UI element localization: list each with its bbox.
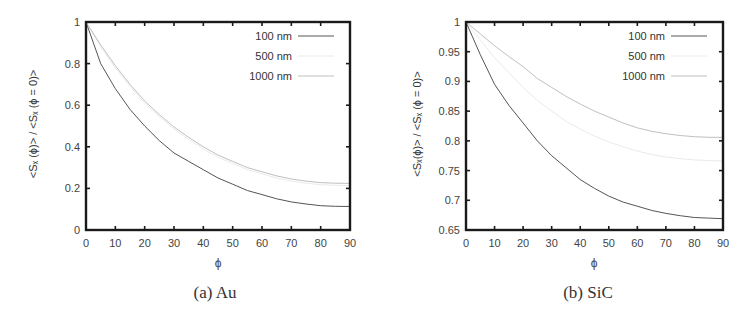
x-axis-label-au: ϕ [208,256,228,270]
y-tick-label: 0 [74,224,80,236]
x-tick-label: 10 [109,237,121,249]
x-tick-label: 0 [83,237,89,249]
y-tick-label: 0.85 [439,105,460,117]
x-tick-label: 80 [688,237,700,249]
legend-label: 1000 nm [249,70,292,82]
y-tick-label: 0.95 [439,46,460,58]
x-tick-label: 0 [463,237,469,249]
y-tick-label: 0.4 [65,141,80,153]
x-tick-label: 50 [227,237,239,249]
caption-sic: (b) SiC [401,283,749,303]
y-tick-label: 0.8 [65,58,80,70]
y-tick-label: 0.2 [65,182,80,194]
y-tick-label: 0.9 [445,75,460,87]
x-tick-label: 80 [315,237,327,249]
x-tick-label: 40 [197,237,209,249]
x-tick-label: 70 [285,237,297,249]
x-tick-label: 50 [603,237,615,249]
x-tick-label: 60 [256,237,268,249]
y-tick-label: 0.7 [445,194,460,206]
y-tick-label: 1 [74,16,80,28]
legend-label: 500 nm [628,50,665,62]
x-tick-label: 70 [660,237,672,249]
series-line-500-nm [466,22,723,161]
y-tick-label: 0.8 [445,135,460,147]
x-tick-label: 20 [517,237,529,249]
plot-frame [86,22,350,230]
y-tick-label: 1 [454,16,460,28]
legend-label: 100 nm [255,30,292,42]
plot-sic: 01020304050607080900.650.70.750.80.850.9… [375,0,749,319]
series-line-100-nm [466,22,723,219]
x-tick-label: 90 [344,237,356,249]
y-tick-label: 0.75 [439,165,460,177]
x-axis-label-sic: ϕ [584,256,604,270]
x-tick-label: 40 [574,237,586,249]
series-line-100-nm [86,22,350,207]
y-tick-label: 0.6 [65,99,80,111]
x-tick-label: 10 [488,237,500,249]
caption-au: (a) Au [28,283,402,303]
y-axis-label-sic: <Sₓ(ϕ)> / <Sₓ (ϕ = 0)> [411,39,423,209]
y-axis-label-au: <Sₓ (ϕ)> / <Sₓ (ϕ = 0)> [27,39,39,209]
legend-label: 100 nm [628,30,665,42]
panel-sic: 01020304050607080900.650.70.750.80.850.9… [375,0,749,319]
x-tick-label: 30 [546,237,558,249]
x-tick-label: 60 [631,237,643,249]
x-tick-label: 90 [717,237,729,249]
plot-au: 010203040506070809000.20.40.60.81100 nm5… [0,0,374,319]
x-tick-label: 30 [168,237,180,249]
x-tick-label: 20 [139,237,151,249]
legend-label: 1000 nm [622,70,665,82]
series-line-1000-nm [466,22,723,137]
panel-au: 010203040506070809000.20.40.60.81100 nm5… [0,0,374,319]
legend-label: 500 nm [255,50,292,62]
y-tick-label: 0.65 [439,224,460,236]
